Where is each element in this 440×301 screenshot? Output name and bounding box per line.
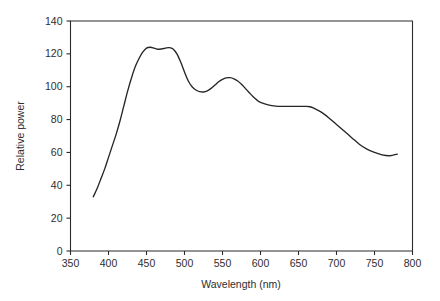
y-tick-label: 120: [45, 47, 63, 59]
y-tick-label: 40: [51, 179, 63, 191]
y-tick-label: 100: [45, 80, 63, 92]
x-tick-label: 450: [138, 257, 156, 269]
x-axis-title: Wavelength (nm): [201, 278, 281, 290]
y-axis-ticks: 020406080100120140: [45, 15, 71, 257]
x-tick-label: 400: [100, 257, 118, 269]
x-tick-label: 600: [252, 257, 270, 269]
x-tick-label: 700: [328, 257, 346, 269]
x-tick-label: 500: [176, 257, 194, 269]
x-axis-ticks: 350400450500550600650700750800: [62, 251, 422, 269]
y-tick-label: 80: [51, 113, 63, 125]
x-tick-label: 650: [290, 257, 308, 269]
y-tick-label: 0: [57, 245, 63, 257]
x-tick-label: 550: [214, 257, 232, 269]
y-tick-label: 60: [51, 146, 63, 158]
x-tick-label: 800: [404, 257, 422, 269]
y-tick-label: 20: [51, 212, 63, 224]
y-tick-label: 140: [45, 15, 63, 27]
x-tick-label: 750: [366, 257, 384, 269]
axis-frame-path: [71, 21, 413, 251]
spectral-power-line-chart: 020406080100120140 350400450500550600650…: [0, 0, 440, 301]
plot-frame: [71, 21, 413, 251]
x-tick-label: 350: [62, 257, 80, 269]
data-series-relative-power: [93, 47, 397, 197]
chart-figure: 020406080100120140 350400450500550600650…: [0, 0, 440, 301]
y-axis-title: Relative power: [14, 101, 26, 171]
